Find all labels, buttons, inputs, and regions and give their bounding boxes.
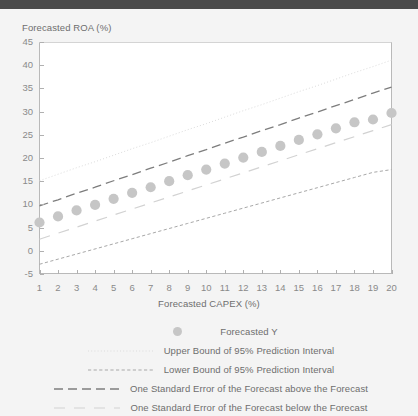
- x-tick-label: 3: [67, 282, 87, 293]
- y-tick-mark: [40, 112, 44, 113]
- y-tick-label: 15: [7, 175, 33, 186]
- series-forecasted-y: [34, 108, 396, 228]
- data-point-marker: [386, 108, 396, 118]
- legend-swatch: [50, 383, 124, 395]
- x-tick-mark: [188, 270, 189, 274]
- legend-item[interactable]: Upper Bound of 95% Prediction Interval: [0, 341, 418, 360]
- y-tick-mark: [40, 135, 44, 136]
- series-line: [40, 87, 392, 206]
- x-tick-label: 17: [326, 282, 346, 293]
- x-tick-mark: [114, 270, 115, 274]
- x-tick-mark: [280, 270, 281, 274]
- x-tick-label: 5: [104, 282, 124, 293]
- data-point-marker: [312, 129, 322, 139]
- legend-item[interactable]: Lower Bound of 95% Prediction Interval: [0, 360, 418, 379]
- x-tick-label: 10: [196, 282, 216, 293]
- x-tick-mark: [169, 270, 170, 274]
- data-point-marker: [183, 170, 193, 180]
- legend-swatch: [84, 345, 158, 357]
- x-tick-label: 20: [382, 282, 402, 293]
- data-point-marker: [53, 211, 63, 221]
- legend-label: Upper Bound of 95% Prediction Interval: [164, 345, 335, 356]
- data-point-marker: [349, 117, 359, 127]
- x-tick-label: 6: [122, 282, 142, 293]
- x-tick-label: 7: [141, 282, 161, 293]
- data-point-marker: [275, 141, 285, 151]
- data-point-marker: [294, 135, 304, 145]
- y-tick-mark: [40, 42, 44, 43]
- legend-item[interactable]: One Standard Error of the Forecast above…: [0, 379, 418, 398]
- data-point-marker: [368, 114, 378, 124]
- y-tick-mark: [40, 274, 44, 275]
- x-tick-label: 13: [252, 282, 272, 293]
- data-point-marker: [34, 217, 44, 227]
- y-tick-mark: [40, 181, 44, 182]
- x-tick-mark: [95, 270, 96, 274]
- series-line: [40, 60, 392, 181]
- x-tick-mark: [58, 270, 59, 274]
- legend-label: Lower Bound of 95% Prediction Interval: [164, 364, 335, 375]
- x-tick-label: 11: [215, 282, 235, 293]
- x-tick-label: 8: [159, 282, 179, 293]
- y-tick-label: 45: [7, 36, 33, 47]
- x-tick-mark: [299, 270, 300, 274]
- y-tick-label: 30: [7, 106, 33, 117]
- y-tick-mark: [40, 204, 44, 205]
- legend-swatch: [50, 402, 124, 414]
- window-titlebar: [0, 0, 418, 9]
- x-tick-mark: [77, 270, 78, 274]
- data-point-marker: [90, 200, 100, 210]
- x-tick-mark: [336, 270, 337, 274]
- series-line: [40, 170, 392, 265]
- y-tick-label: -5: [7, 268, 33, 279]
- x-tick-label: 12: [233, 282, 253, 293]
- chart-page: Forecasted ROA (%) 454035302520151050-5 …: [0, 9, 418, 416]
- x-tick-label: 9: [178, 282, 198, 293]
- legend-item[interactable]: Forecasted Y: [0, 322, 418, 341]
- x-tick-label: 4: [85, 282, 105, 293]
- x-tick-mark: [354, 270, 355, 274]
- y-tick-label: 40: [7, 59, 33, 70]
- x-tick-mark: [262, 270, 263, 274]
- x-tick-label: 14: [270, 282, 290, 293]
- y-tick-mark: [40, 158, 44, 159]
- data-point-marker: [238, 152, 248, 162]
- x-tick-mark: [132, 270, 133, 274]
- legend-swatch: [140, 326, 214, 338]
- data-point-marker: [109, 194, 119, 204]
- x-axis-title: Forecasted CAPEX (%): [0, 298, 418, 309]
- x-tick-label: 18: [344, 282, 364, 293]
- y-tick-mark: [40, 65, 44, 66]
- y-tick-mark: [40, 251, 44, 252]
- y-tick-label: 20: [7, 152, 33, 163]
- x-tick-label: 1: [30, 282, 50, 293]
- x-tick-label: 19: [363, 282, 383, 293]
- data-point-marker: [220, 158, 230, 168]
- data-point-marker: [71, 205, 81, 215]
- y-tick-mark: [40, 228, 44, 229]
- data-point-marker: [257, 147, 267, 157]
- legend-swatch: [84, 364, 158, 376]
- legend-label: Forecasted Y: [220, 326, 278, 337]
- y-tick-label: 35: [7, 82, 33, 93]
- data-point-marker: [164, 176, 174, 186]
- y-tick-label: 25: [7, 129, 33, 140]
- x-tick-label: 16: [307, 282, 327, 293]
- x-tick-label: 15: [289, 282, 309, 293]
- x-tick-label: 2: [48, 282, 68, 293]
- x-tick-mark: [373, 270, 374, 274]
- chart-legend: Forecasted YUpper Bound of 95% Predictio…: [0, 322, 418, 416]
- x-tick-mark: [206, 270, 207, 274]
- x-tick-mark: [317, 270, 318, 274]
- legend-circle-icon: [173, 327, 182, 336]
- x-tick-mark: [40, 270, 41, 274]
- y-tick-label: 0: [7, 245, 33, 256]
- legend-item[interactable]: One Standard Error of the Forecast below…: [0, 398, 418, 416]
- data-point-marker: [201, 165, 211, 175]
- x-tick-mark: [151, 270, 152, 274]
- data-point-marker: [331, 123, 341, 133]
- x-tick-mark: [243, 270, 244, 274]
- legend-label: One Standard Error of the Forecast above…: [130, 383, 368, 394]
- legend-label: One Standard Error of the Forecast below…: [130, 402, 367, 413]
- y-tick-mark: [40, 88, 44, 89]
